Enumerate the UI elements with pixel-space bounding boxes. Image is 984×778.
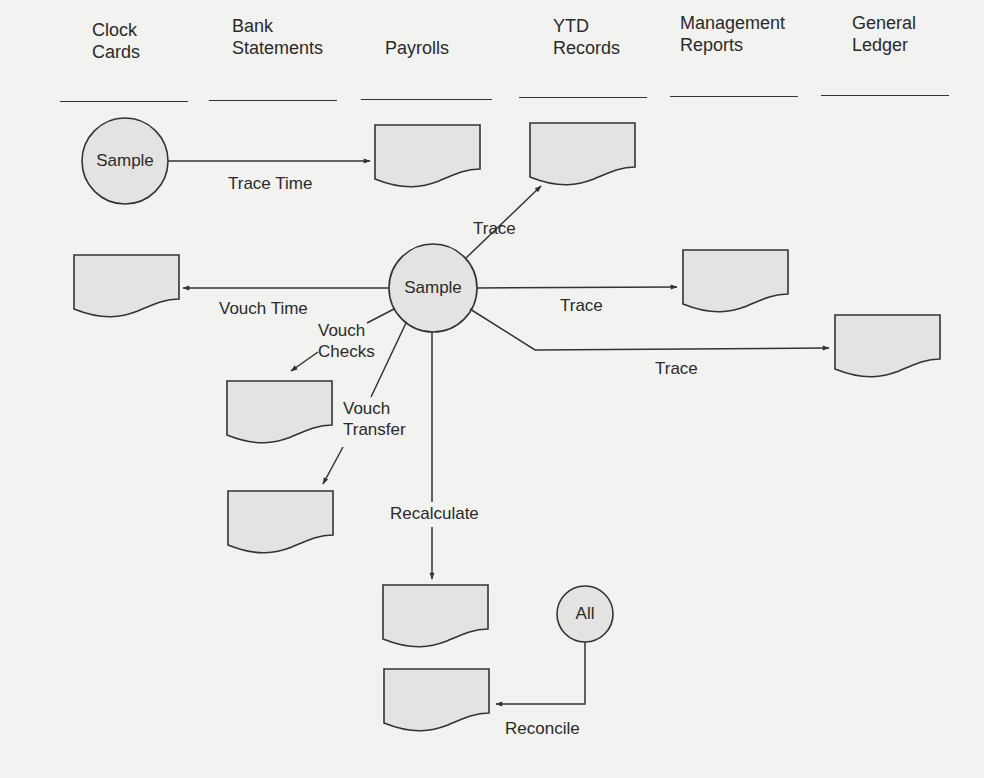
- document-icon-ytd-records: [530, 123, 635, 185]
- arrow-reconcile: [496, 642, 585, 704]
- document-icon-general-ledger: [835, 315, 940, 377]
- document-icon-bank-transfer: [228, 491, 333, 553]
- edge-label-line1: Vouch: [318, 320, 375, 341]
- edge-label-line2: Checks: [318, 341, 375, 362]
- flowchart-canvas: [0, 0, 984, 778]
- edge-label-vouch-time: Vouch Time: [219, 299, 308, 319]
- edge-label-vouch-checks: Vouch Checks: [318, 320, 375, 362]
- document-icon-payroll-reconcile: [384, 669, 489, 731]
- sample-label-payrolls: Sample: [393, 278, 473, 298]
- edge-label-vouch-transfer: Vouch Transfer: [343, 398, 406, 440]
- document-icon-payroll-recalc: [383, 585, 488, 647]
- edge-label-reconcile: Reconcile: [505, 719, 580, 739]
- edge-label-trace-ytd: Trace: [473, 219, 516, 239]
- document-icon-bank-checks: [227, 381, 332, 443]
- edge-label-line1: Vouch: [343, 398, 406, 419]
- edge-label-recalculate: Recalculate: [390, 504, 479, 524]
- document-icon-payroll: [375, 125, 480, 187]
- edge-label-trace-time: Trace Time: [228, 174, 312, 194]
- edge-label-line2: Transfer: [343, 419, 406, 440]
- arrow-vouch-checks: [291, 352, 318, 371]
- arrow-trace-management: [477, 287, 677, 288]
- arrow-trace-general-ledger: [470, 309, 829, 350]
- edge-label-trace-general-ledger: Trace: [655, 359, 698, 379]
- line-vouch-transfer: [371, 323, 406, 397]
- edge-label-trace-management: Trace: [560, 296, 603, 316]
- document-icon-management-report: [683, 250, 788, 312]
- sample-label-clock-cards: Sample: [85, 151, 165, 171]
- arrow-vouch-transfer: [323, 447, 343, 484]
- document-icon-clock-card: [74, 255, 179, 317]
- all-label: All: [565, 604, 605, 624]
